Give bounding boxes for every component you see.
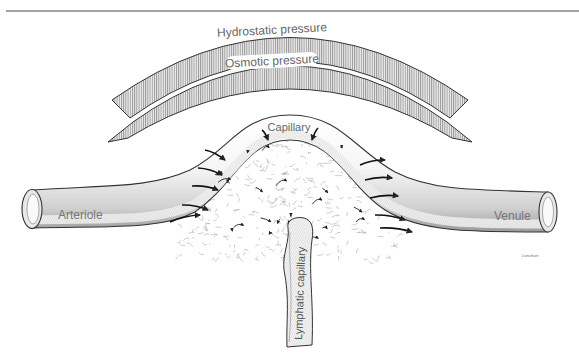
- tissue-fiber: [272, 146, 278, 147]
- tissue-fiber: [277, 229, 279, 233]
- tissue-fiber: [275, 198, 276, 201]
- tissue-fiber: [180, 244, 186, 246]
- tissue-fiber: [214, 233, 218, 235]
- venule-label: Venule: [494, 209, 531, 223]
- tissue-fiber: [292, 200, 296, 204]
- hydrostatic-pressure-label: Hydrostatic pressure: [217, 20, 328, 40]
- tissue-fiber: [236, 258, 243, 262]
- venule-opening: [539, 192, 557, 232]
- tissue-fiber: [356, 200, 361, 203]
- tissue-fiber: [214, 219, 218, 221]
- tissue-fiber: [225, 254, 227, 255]
- tissue-fiber: [233, 250, 234, 252]
- tissue-fiber: [192, 237, 194, 238]
- tissue-fiber: [320, 165, 324, 166]
- tissue-fiber: [244, 252, 245, 255]
- artist-signature: Lonchuet: [522, 253, 539, 258]
- interstitial-flow-arrow: [261, 218, 271, 222]
- capillary-exchange-diagram: Hydrostatic pressure Osmotic pressure Ca…: [0, 0, 579, 359]
- tissue-fiber: [332, 221, 338, 224]
- tissue-fiber: [285, 146, 291, 150]
- tissue-fiber: [176, 257, 178, 259]
- tissue-fiber: [209, 244, 210, 245]
- interstitial-flow-arrow: [354, 207, 362, 212]
- tissue-fiber: [304, 191, 310, 195]
- tissue-fiber: [296, 177, 301, 179]
- tissue-fiber: [347, 241, 349, 245]
- tissue-fiber: [325, 223, 332, 225]
- tissue-fiber: [267, 201, 271, 204]
- tissue-fiber: [238, 237, 242, 238]
- tissue-fiber: [330, 171, 334, 172]
- tissue-fiber: [298, 206, 303, 207]
- tissue-fiber: [271, 199, 277, 202]
- tissue-fiber: [312, 221, 313, 225]
- tissue-fiber: [271, 203, 273, 205]
- tissue-fiber: [255, 190, 256, 191]
- interstitial-flow-arrow: [227, 181, 229, 183]
- tissue-fiber: [365, 210, 371, 214]
- tissue-fiber: [282, 204, 287, 206]
- tissue-fiber: [215, 257, 219, 261]
- tissue-fiber: [397, 234, 403, 236]
- tissue-fiber: [271, 150, 272, 151]
- tissue-fiber: [329, 229, 332, 233]
- tissue-fiber: [340, 197, 344, 198]
- tissue-fiber: [227, 203, 229, 206]
- hydrostatic-pressure-label-group: Hydrostatic pressure: [217, 20, 328, 40]
- tissue-fiber: [313, 245, 318, 246]
- tissue-fiber: [213, 258, 214, 260]
- tissue-fiber: [210, 208, 211, 212]
- tissue-fiber: [293, 208, 297, 210]
- tissue-fiber: [216, 209, 218, 213]
- tissue-fiber: [178, 224, 181, 228]
- tissue-fiber: [341, 172, 343, 174]
- tissue-fiber: [293, 168, 298, 170]
- tissue-fiber: [262, 252, 266, 256]
- interstitial-flow-arrow: [312, 199, 322, 204]
- tissue-fiber: [268, 195, 270, 198]
- tissue-fiber: [327, 198, 333, 200]
- tissue-fiber: [317, 254, 323, 255]
- tissue-fiber: [281, 249, 283, 253]
- tissue-fiber: [341, 250, 342, 253]
- tissue-fiber: [330, 237, 335, 239]
- tissue-fiber: [321, 182, 326, 186]
- tissue-fiber: [280, 216, 284, 220]
- tissue-fiber: [289, 163, 295, 166]
- tissue-fiber: [306, 162, 307, 163]
- interstitial-flow-arrow: [322, 227, 327, 229]
- tissue-fiber: [283, 199, 285, 203]
- tissue-fiber: [258, 198, 261, 200]
- tissue-fiber: [281, 227, 284, 231]
- tissue-fiber: [332, 216, 338, 218]
- tissue-fiber: [215, 214, 218, 218]
- tissue-fiber: [317, 218, 321, 221]
- tissue-fiber: [256, 161, 260, 162]
- tissue-fiber: [303, 179, 306, 183]
- tissue-fiber: [359, 211, 366, 212]
- tissue-fiber: [203, 227, 209, 230]
- tissue-fiber: [214, 236, 215, 237]
- interstitial-flow-arrow: [234, 224, 244, 227]
- tissue-fiber: [267, 159, 269, 163]
- interstitial-flow-arrow: [276, 180, 287, 186]
- interstitial-flow-arrow: [322, 188, 327, 192]
- tissue-fiber: [352, 223, 358, 225]
- tissue-fiber: [178, 241, 181, 243]
- tissue-fiber: [187, 243, 193, 247]
- tissue-fiber: [254, 164, 258, 167]
- filtration-arrow: [380, 228, 412, 232]
- tissue-fiber: [266, 246, 269, 248]
- tissue-fiber: [369, 261, 374, 263]
- tissue-fiber: [269, 249, 274, 252]
- tissue-fiber: [248, 175, 253, 179]
- tissue-fiber: [278, 196, 284, 200]
- tissue-fiber: [336, 186, 339, 190]
- tissue-fiber: [307, 197, 312, 198]
- tissue-fiber: [262, 232, 263, 234]
- tissue-fiber: [326, 253, 330, 255]
- tissue-fiber: [236, 193, 238, 197]
- tissue-fiber: [256, 257, 258, 259]
- tissue-fiber: [320, 163, 324, 164]
